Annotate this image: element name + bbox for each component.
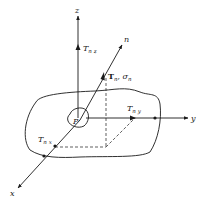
- n-axis: [80, 45, 122, 120]
- t-n-sigma-n-label: Tn, σn: [108, 71, 132, 82]
- t-nx-label: Tn x: [38, 135, 53, 145]
- x-axis-label: x: [10, 189, 15, 197]
- x-axis: [18, 120, 80, 188]
- t-ny-label: Tn y: [127, 104, 142, 115]
- t-nz-label: Tn z: [83, 44, 97, 54]
- z-axis-label: z: [74, 6, 80, 15]
- n-axis-label: n: [124, 35, 129, 44]
- y-axis-label: y: [190, 114, 196, 123]
- y-surface-dot: [153, 116, 156, 119]
- t-nz-arrowhead: [76, 44, 81, 50]
- stress-vector-diagram: z y x n P Tn z Tn y Tn x Tn, σn: [0, 0, 204, 197]
- t-n-arrowhead: [101, 72, 105, 81]
- t-nx-dot: [53, 144, 56, 147]
- point-p-label: P: [72, 117, 79, 126]
- t-ny-arrowhead: [130, 116, 136, 121]
- dashed-diagonal: [106, 118, 135, 147]
- x-surface-dot: [42, 154, 45, 157]
